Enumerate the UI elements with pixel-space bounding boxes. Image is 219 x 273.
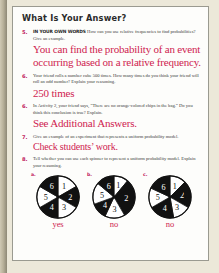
exercise-prompt: Your friend rolls a number cube 500 time…: [33, 73, 202, 86]
spinner-letter: b.: [87, 172, 92, 177]
exercise-number: 5.: [22, 29, 28, 35]
spinner-sector-label: 4: [103, 202, 107, 211]
exercise-prompt: IN YOUR OWN WORDS How can you use relati…: [33, 29, 202, 42]
spinner-sector-label: 4: [50, 204, 54, 213]
spinner-item-a: a. 123456 yes: [30, 173, 86, 229]
spinner-diagram-a: 123456: [34, 173, 82, 221]
exercise-8: 8. Tell whether you can use each spinner…: [22, 156, 202, 169]
spinner-sector-label: 3: [112, 206, 116, 215]
exercise-lead-in: IN YOUR OWN WORDS: [33, 29, 86, 34]
spinner-item-c: c. 123456 no: [142, 173, 198, 229]
spinner-sector-label: 6: [161, 183, 165, 192]
spinner-sector-label: 3: [62, 204, 66, 213]
spinner-row: a. 123456 yes b. 123456 no c. 123456 no: [22, 173, 202, 229]
spinner-letter: c.: [143, 172, 147, 177]
exercise-number: 6.: [22, 103, 28, 109]
spinner-diagram-b: 123456: [90, 173, 138, 221]
spinner-diagram-c: 123456: [146, 173, 194, 221]
exercise-number: 7.: [22, 134, 28, 140]
spinner-sector-label: 6: [50, 183, 54, 192]
exercise-answer: You can find the probability of an event…: [33, 43, 202, 70]
spinner-sector-label: 2: [124, 194, 128, 203]
spinner-sector-label: 4: [163, 204, 167, 213]
spinner-answer: no: [86, 219, 142, 229]
spinner-sector-label: 5: [156, 194, 160, 203]
spinner-item-b: b. 123456 no: [86, 173, 142, 229]
exercise-6-orange-chips: 6. In Activity 2, your friend says, “The…: [22, 103, 202, 130]
spinner-sector-label: 5: [44, 193, 48, 202]
spinner-answer: no: [142, 219, 198, 229]
spinner-sector-label: 1: [62, 183, 66, 192]
exercise-6-number-cube: 6. Your friend rolls a number cube 500 t…: [22, 73, 202, 100]
exercise-prompt: In Activity 2, your friend says, “There …: [33, 103, 202, 116]
exercise-number: 8.: [22, 156, 28, 162]
exercise-7: 7. Give an example of an experiment that…: [22, 134, 202, 154]
spinner-sector-label: 6: [107, 182, 111, 191]
page-content: What Is Your Answer? 5. IN YOUR OWN WORD…: [22, 13, 202, 229]
exercise-5: 5. IN YOUR OWN WORDS How can you use rel…: [22, 29, 202, 70]
section-heading: What Is Your Answer?: [22, 13, 202, 23]
spinner-sector-label: 1: [116, 182, 120, 191]
exercise-answer: Check students’ work.: [33, 141, 202, 153]
spinner-sector-label: 5: [100, 191, 104, 200]
exercise-prompt: Give an example of an experiment that re…: [33, 134, 202, 141]
book-spine-edge: [0, 0, 7, 273]
exercise-number: 6.: [22, 73, 28, 79]
exercise-answer: 250 times: [33, 87, 202, 100]
spinner-sector-label: 3: [175, 203, 179, 212]
exercise-answer: See Additional Answers.: [33, 117, 202, 130]
spinner-answer: yes: [30, 219, 86, 229]
exercise-prompt: Tell whether you can use each spinner to…: [33, 156, 202, 169]
textbook-page: What Is Your Answer? 5. IN YOUR OWN WORD…: [12, 6, 209, 261]
spinner-sector-label: 1: [173, 182, 177, 191]
spinner-letter: a.: [31, 172, 36, 177]
